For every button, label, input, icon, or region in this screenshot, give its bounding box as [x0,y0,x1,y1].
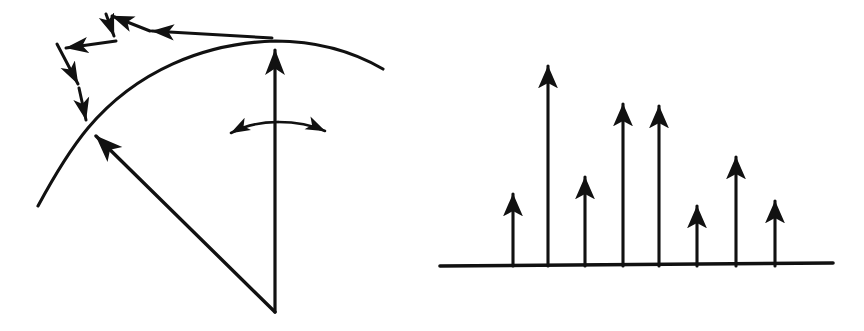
ray-segment-6 [79,88,86,120]
left-panel-group [38,14,383,312]
wavefront-arc [38,41,383,206]
figure-canvas [0,0,864,331]
ray-segment-1 [152,31,272,38]
ray-segment-2 [112,16,150,31]
left-panel-scattering-geometry-diagram [0,0,864,331]
angular-sweep-arc-left [231,122,278,133]
ray-segment-4 [66,41,116,48]
impulse-stem-group [513,66,775,266]
right-panel-stem-spectrum-diagram [440,66,833,266]
ray-segment-5 [57,44,78,84]
radius-arrow [96,136,275,312]
angular-sweep-arc-right [278,122,325,131]
